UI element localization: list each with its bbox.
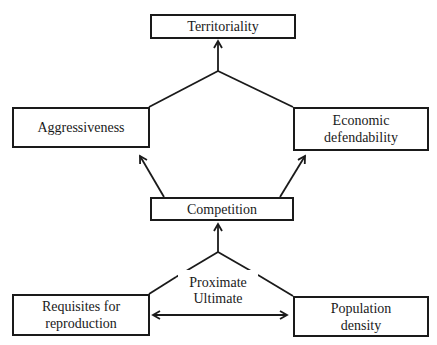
line-aggressiveness-merge — [149, 71, 218, 107]
node-economic-line1: Economic — [333, 112, 390, 129]
node-territoriality-label: Territoriality — [187, 18, 258, 35]
node-economic-defendability: Economic defendability — [293, 107, 429, 151]
node-requisites-for-reproduction: Requisites for reproduction — [12, 294, 150, 336]
arrow-to-aggressiveness — [140, 156, 164, 197]
node-aggressiveness-label: Aggressiveness — [37, 119, 124, 136]
node-population-density: Population density — [293, 296, 429, 337]
node-population-line1: Population — [331, 300, 392, 317]
node-population-line2: density — [341, 317, 381, 334]
node-aggressiveness: Aggressiveness — [12, 107, 150, 148]
node-competition-label: Competition — [187, 201, 257, 218]
node-economic-line2: defendability — [324, 129, 398, 146]
node-territoriality: Territoriality — [150, 14, 296, 39]
arrow-to-economic — [280, 156, 305, 197]
line-population-merge-a — [258, 275, 293, 296]
line-requisites-merge-a — [149, 277, 176, 294]
label-ultimate: Ultimate — [178, 291, 258, 307]
node-competition: Competition — [150, 197, 294, 221]
node-requisites-line1: Requisites for — [42, 298, 120, 315]
label-proximate: Proximate — [178, 275, 258, 291]
node-requisites-line2: reproduction — [45, 315, 117, 332]
line-economic-merge — [218, 71, 293, 107]
